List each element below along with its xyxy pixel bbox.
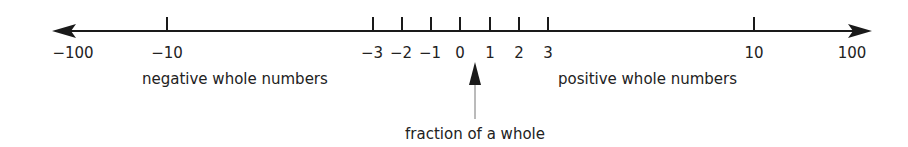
fraction-of-whole-label: fraction of a whole (405, 125, 545, 143)
number-line-diagram: −100 −10 −3 −2 −1 0 1 2 3 10 100 negativ… (0, 0, 908, 147)
label-min: −100 (52, 44, 93, 62)
tick-label-neg1: −1 (419, 44, 441, 62)
tick-label-neg3: −3 (361, 44, 383, 62)
tick-label-neg2: −2 (390, 44, 412, 62)
fraction-pointer-arrow-icon (469, 62, 481, 85)
tick-label-10: 10 (744, 44, 763, 62)
negative-whole-numbers-label: negative whole numbers (142, 70, 328, 88)
tick-label-3: 3 (543, 44, 553, 62)
positive-whole-numbers-label: positive whole numbers (558, 70, 737, 88)
tick-label-1: 1 (485, 44, 495, 62)
tick-label-neg10: −10 (151, 44, 183, 62)
tick-label-0: 0 (455, 44, 465, 62)
label-max: 100 (838, 44, 867, 62)
tick-label-2: 2 (514, 44, 524, 62)
tick-marks (167, 17, 754, 31)
